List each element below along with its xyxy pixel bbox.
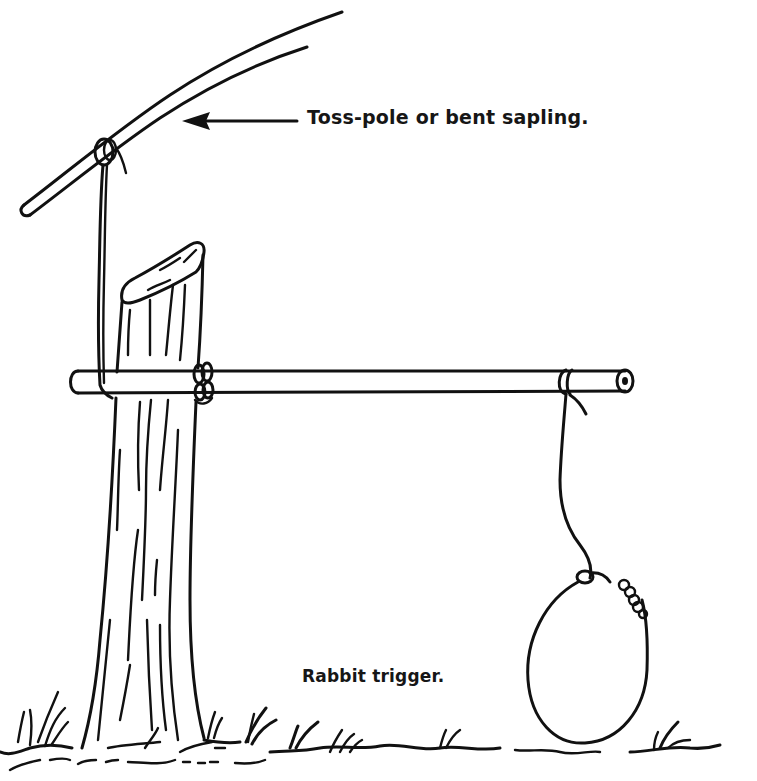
lashing [194, 363, 213, 404]
crossbar [71, 370, 634, 393]
noose [528, 571, 648, 743]
stump [82, 243, 204, 748]
toss-pole [21, 12, 342, 216]
caption: Rabbit trigger. [302, 666, 444, 686]
snare-line [559, 370, 590, 578]
arrow [182, 112, 297, 130]
toss-pole-label: Toss-pole or bent sapling. [307, 106, 589, 128]
ground [0, 692, 720, 770]
cord [98, 165, 112, 398]
